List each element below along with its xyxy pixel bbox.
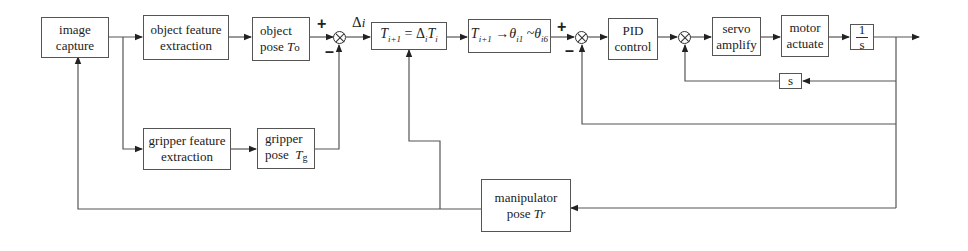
- subscript: i+1: [479, 33, 492, 43]
- symbol-subscript: o: [294, 41, 300, 53]
- subscript: i+1: [388, 33, 401, 43]
- block-label: control: [615, 39, 652, 55]
- tilde-symbol: ~: [523, 26, 534, 41]
- integrator-block: 1 s: [850, 24, 874, 50]
- denominator: s: [859, 39, 864, 51]
- block-label: gripper feature: [149, 133, 226, 149]
- delta-i-label: Δi: [352, 14, 365, 31]
- gripper-feature-extraction-block: gripper feature extraction: [143, 128, 231, 170]
- block-label: actuate: [787, 36, 824, 52]
- image-capture-block: image capture: [41, 17, 109, 58]
- gripper-pose-block: gripper pose Tg: [257, 128, 315, 169]
- summing-junction-velocity: [678, 31, 691, 44]
- pid-control-block: PID control: [608, 18, 658, 60]
- block-label: pose: [265, 147, 295, 162]
- symbol-subscript: g: [303, 152, 308, 163]
- pose-update-block: Ti+1 = ΔiTi: [371, 22, 447, 50]
- block-label: pose: [507, 206, 534, 221]
- delta-subscript: i: [362, 15, 366, 30]
- symbol-T: T: [295, 147, 302, 162]
- inverse-kinematics-expression: Ti+1 →θi1 ~θi6: [471, 26, 548, 47]
- inverse-kinematics-block: Ti+1 →θi1 ~θi6: [468, 19, 551, 53]
- block-label: object: [260, 23, 292, 39]
- delta-symbol: Δ: [352, 14, 362, 30]
- plus-sign: +: [557, 19, 566, 35]
- equals-delta: = Δ: [401, 26, 425, 41]
- arrow-symbol: →: [492, 26, 510, 41]
- block-label: gripper: [265, 131, 303, 147]
- block-label: extraction: [161, 149, 213, 165]
- summing-junction-pose-error: [333, 31, 346, 44]
- numerator: 1: [859, 24, 866, 36]
- servo-amplify-block: servo amplify: [712, 17, 761, 56]
- object-pose-block: object pose To: [252, 17, 310, 61]
- subscript: i6: [541, 33, 548, 43]
- plus-sign: +: [317, 16, 326, 32]
- block-label: image: [59, 22, 91, 38]
- manipulator-pose-block: manipulator pose Tr: [481, 179, 571, 232]
- motor-actuate-block: motor actuate: [781, 15, 829, 57]
- object-feature-extraction-block: object feature extraction: [143, 15, 229, 60]
- block-label: pose: [260, 39, 287, 54]
- block-label: motor: [789, 20, 820, 36]
- block-label: PID: [623, 23, 644, 39]
- block-label: s: [788, 73, 793, 89]
- object-pose-symbol: pose To: [260, 39, 300, 55]
- symbol-T: T: [380, 26, 388, 41]
- integrator-fraction: 1 s: [856, 24, 868, 51]
- summing-junction-joint-error: [575, 31, 588, 44]
- manipulator-pose-symbol: pose Tr: [507, 206, 546, 222]
- block-label: capture: [56, 38, 94, 54]
- pose-update-equation: Ti+1 = ΔiTi: [380, 26, 438, 47]
- derivative-block: s: [779, 73, 802, 89]
- symbol-T: T: [471, 26, 479, 41]
- block-label: amplify: [716, 37, 756, 53]
- block-label: object feature: [150, 22, 221, 38]
- symbol-Tr: Tr: [534, 206, 546, 221]
- subscript: i: [435, 33, 438, 43]
- block-label: manipulator: [495, 190, 558, 206]
- gripper-pose-symbol: pose Tg: [265, 147, 308, 166]
- minus-sign: –: [325, 44, 334, 60]
- minus-sign: –: [565, 43, 574, 59]
- block-label: servo: [722, 21, 750, 37]
- block-label: extraction: [160, 38, 212, 54]
